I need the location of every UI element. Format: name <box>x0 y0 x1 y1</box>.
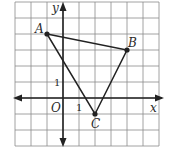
y-axis-up-arrow-icon <box>60 2 67 11</box>
coordinate-plane: y x O 1 1 A B C <box>0 0 170 148</box>
vertex-a-dot <box>44 31 49 36</box>
x-axis-left-arrow-icon <box>13 95 22 102</box>
y-tick-label: 1 <box>54 77 60 88</box>
point-c-label: C <box>91 117 100 131</box>
point-b-label: B <box>127 36 137 50</box>
origin-label: O <box>51 101 61 115</box>
x-tick-label: 1 <box>76 102 82 113</box>
point-a-label: A <box>34 22 44 36</box>
x-axis-label: x <box>150 101 157 115</box>
vertex-c-dot <box>92 111 97 116</box>
y-axis-label: y <box>51 1 59 15</box>
